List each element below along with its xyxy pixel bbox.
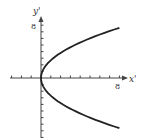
- x-tick-label-8: 8: [115, 82, 120, 91]
- x-axis-label: x': [129, 74, 137, 84]
- y-tick-label-8: 8: [31, 22, 36, 31]
- axes: [10, 20, 124, 138]
- x-axis-arrow-icon: [122, 76, 128, 81]
- y-axis-label: y': [32, 6, 41, 16]
- y-axis-arrow-icon: [39, 16, 44, 22]
- parabola-diagram: y' 8 x' 8: [0, 0, 142, 140]
